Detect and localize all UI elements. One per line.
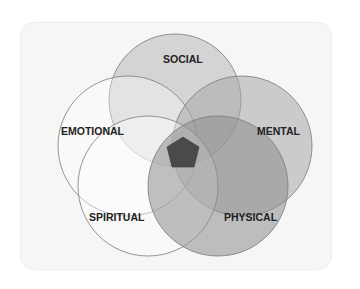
venn-diagram: SOCIAL EMOTIONAL MENTAL SPIRITUAL PHYSIC… <box>0 0 360 289</box>
circle-physical <box>148 116 288 256</box>
label-social: SOCIAL <box>163 53 203 65</box>
label-mental: MENTAL <box>257 125 301 137</box>
label-spiritual: SPIRITUAL <box>89 211 145 223</box>
label-physical: PHYSICAL <box>224 211 278 223</box>
label-emotional: EMOTIONAL <box>61 125 125 137</box>
